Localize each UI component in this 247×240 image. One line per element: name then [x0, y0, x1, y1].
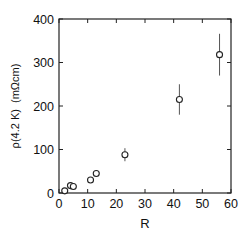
y-tick-label: 300: [33, 56, 54, 70]
data-points: [62, 52, 223, 194]
data-point: [62, 188, 68, 194]
data-point: [122, 152, 128, 158]
chart-canvas: 0102030405060 0100200300400 R ρ(4.2 K) (…: [0, 0, 247, 240]
x-tick-label: 30: [138, 197, 152, 211]
error-bars: [125, 34, 220, 161]
x-tick-label: 10: [81, 197, 95, 211]
y-tick-label: 400: [33, 13, 54, 27]
x-tick-label: 20: [109, 197, 123, 211]
scatter-chart: 0102030405060 0100200300400 R ρ(4.2 K) (…: [0, 0, 247, 240]
x-tick-labels: 0102030405060: [56, 197, 238, 211]
y-axis-label: ρ(4.2 K) (mΩcm): [9, 64, 21, 149]
x-tick-label: 50: [195, 197, 209, 211]
y-tick-label: 0: [47, 187, 54, 201]
data-point: [93, 170, 99, 176]
x-axis-label: R: [140, 216, 149, 231]
y-tick-label: 200: [33, 100, 54, 114]
x-tick-label: 0: [56, 197, 63, 211]
x-tick-label: 60: [224, 197, 238, 211]
y-tick-label: 100: [33, 143, 54, 157]
data-point: [217, 52, 223, 58]
plot-frame: [59, 19, 231, 193]
axis-ticks: [59, 19, 231, 193]
data-point: [70, 183, 76, 189]
data-point: [176, 96, 182, 102]
y-tick-labels: 0100200300400: [33, 13, 54, 201]
x-tick-label: 40: [167, 197, 181, 211]
data-point: [88, 177, 94, 183]
